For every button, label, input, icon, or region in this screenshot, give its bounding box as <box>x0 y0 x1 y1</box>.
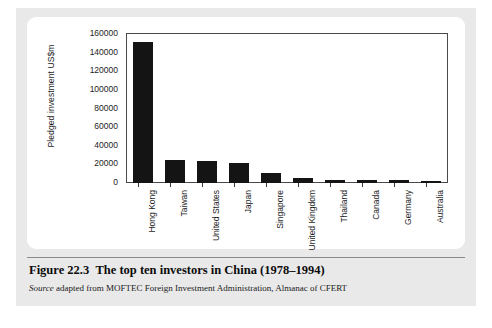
figure-panel: Pledged investment US$m 1600001400001200… <box>16 8 476 306</box>
bar <box>229 163 249 183</box>
figure-caption: Figure 22.3 The top ten investors in Chi… <box>29 263 325 278</box>
source-text: adapted from MOFTEC Foreign Investment A… <box>54 283 347 293</box>
figure-caption-text: The top ten investors in China (1978–199… <box>95 263 324 277</box>
x-label-slot: Japan <box>229 187 249 249</box>
y-tick-label: 40000 <box>94 140 118 150</box>
y-tick-label: 60000 <box>94 121 118 131</box>
figure-source: Source adapted from MOFTEC Foreign Inves… <box>29 283 347 293</box>
bar <box>165 160 185 183</box>
x-tick-label: Thailand <box>339 190 349 223</box>
x-label-slot: Singapore <box>261 187 281 249</box>
chart-card: Pledged investment US$m 1600001400001200… <box>27 17 465 249</box>
x-label-slot: Thailand <box>325 187 345 249</box>
x-tick-label: Hong Kong <box>147 190 157 233</box>
x-tick-label: Australia <box>435 190 445 223</box>
y-tick-label: 80000 <box>94 103 118 113</box>
x-label-slot: Germany <box>389 187 409 249</box>
x-label-slot: Hong Kong <box>133 187 153 249</box>
x-tick-label: Canada <box>371 190 381 220</box>
x-label-slot: Canada <box>357 187 377 249</box>
source-label: Source <box>29 283 54 293</box>
x-label-slot: Taiwan <box>165 187 185 249</box>
x-label-slot: United Kingdom <box>293 187 313 249</box>
y-axis-ticks: 1600001400001200001000008000060000400002… <box>69 33 121 183</box>
y-tick-label: 100000 <box>90 84 118 94</box>
caption-divider <box>27 257 465 258</box>
x-label-slot: United States <box>197 187 217 249</box>
bar <box>133 42 153 183</box>
bars-group <box>127 34 447 183</box>
x-label-slot: Australia <box>421 187 441 249</box>
x-tick-label: Taiwan <box>179 190 189 216</box>
y-tick-label: 160000 <box>90 28 118 38</box>
x-tick-label: Germany <box>403 190 413 225</box>
x-tick-label: United States <box>211 190 221 241</box>
y-tick-label: 120000 <box>90 65 118 75</box>
y-tick-label: 20000 <box>94 158 118 168</box>
y-axis-title: Pledged investment US$m <box>46 21 56 171</box>
x-tick-label: Japan <box>243 190 253 213</box>
x-tick-label: Singapore <box>275 190 285 229</box>
figure-number: Figure 22.3 <box>29 263 89 277</box>
y-tick-label: 0 <box>113 177 118 187</box>
x-tick-label: United Kingdom <box>307 190 317 250</box>
x-axis-labels: Hong KongTaiwanUnited StatesJapanSingapo… <box>127 187 447 249</box>
bar-chart: Pledged investment US$m 1600001400001200… <box>27 17 465 249</box>
y-tick-label: 140000 <box>90 47 118 57</box>
bar <box>261 173 281 183</box>
bar <box>197 161 217 183</box>
